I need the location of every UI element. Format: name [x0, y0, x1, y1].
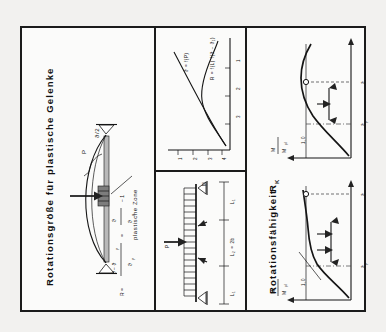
formula-equals: = — [119, 234, 125, 237]
y-tick-3: 3 — [208, 157, 213, 160]
panel-middle-top: ϑ = f(P) R = f(L) f(ϑ − ϑ₁) 1 2 3 1 2 3 … — [154, 28, 245, 170]
lower-tick-theta: ϑ — [361, 193, 366, 196]
load-label-p-middle: P — [165, 244, 170, 248]
lower-x-axis-arrow — [348, 180, 354, 187]
curve-label-theta: ϑ = f(P) — [184, 52, 189, 72]
dim-label-l1-top: L₁ — [230, 199, 235, 204]
lower-theta-y-sub: y — [364, 263, 368, 265]
left-column-title: Rotationsgröße für plastische Gelenke — [44, 67, 55, 286]
member-label-m: M — [202, 182, 207, 186]
lower-inset-beam — [317, 217, 339, 266]
y-tick-4: 4 — [222, 157, 227, 160]
x-tick-2: 2 — [236, 87, 241, 90]
dim-label-l1-bottom: L₁ — [230, 291, 235, 296]
formula-num1: ϑ − ϑ — [111, 263, 117, 274]
lower-theta-y-sym: ϑ — [361, 265, 366, 268]
upper-tick-theta-y: ϑy — [361, 121, 368, 126]
symbol-r-sub: K — [274, 178, 280, 184]
upper-curve-m-mpl — [301, 44, 349, 156]
x-tick-1: 1 — [236, 59, 241, 62]
load-label-p: P — [81, 149, 87, 154]
upper-x-axis-arrow — [348, 38, 354, 45]
upper-tick-10: 1,0 — [301, 136, 306, 144]
upper-tick-theta: ϑ — [361, 81, 366, 84]
upper-axis-den-sub: pl — [284, 142, 288, 145]
chart-right-upper — [281, 38, 361, 164]
upper-axis-den: M — [281, 149, 287, 153]
upper-y-axis-label: M M pl — [267, 118, 287, 154]
rotation-label-theta-half: ϑ/2 — [94, 128, 100, 138]
rotation-formula: R = ϑ − ϑ y ϑ y = ϑ ϑ y − 1 — [92, 178, 152, 298]
panel-right: Rotationsfähigkeit RK — [245, 28, 364, 314]
upper-theta-y-sub: y — [364, 121, 368, 123]
figure-sheet: Rotationsgröße für plastische Gelenke — [20, 26, 366, 312]
symbol-r: R — [267, 184, 278, 192]
formula-num1-sub: y — [115, 248, 119, 250]
lower-tick-10: 1,0 — [301, 278, 306, 286]
formula-lhs: R = — [119, 288, 125, 296]
formula-num2: ϑ — [111, 219, 117, 222]
lower-marker — [303, 191, 308, 196]
dim-label-l2: L₂ = 2b — [230, 237, 235, 256]
upper-inset-beam — [317, 83, 337, 124]
lower-curve-m-mpl — [303, 190, 349, 298]
lower-tick-theta-y: ϑy — [361, 263, 368, 268]
upper-y-axis-arrow — [287, 155, 294, 161]
panel-left: Rotationsgröße für plastische Gelenke — [22, 28, 154, 314]
x-tick-3: 3 — [236, 115, 241, 118]
lower-y-axis-arrow — [287, 297, 294, 303]
upper-marker — [303, 79, 308, 84]
formula-den2: ϑ — [127, 220, 133, 223]
lower-y-axis-label: M M pl — [267, 260, 287, 296]
panel-middle-bottom: P M L₁ L₂ = 2b L₁ — [154, 172, 245, 314]
y-tick-2: 2 — [193, 157, 198, 160]
curve-label-r: R = f(L) f(ϑ − ϑ₁) — [210, 37, 215, 80]
lower-axis-num: M — [270, 290, 276, 294]
right-column-symbol: RK — [267, 178, 280, 192]
upper-theta-y-sym: ϑ — [361, 123, 366, 126]
lower-axis-den: M — [281, 291, 287, 295]
upper-axis-num: M — [270, 148, 276, 152]
lower-axis-den-sub: pl — [284, 284, 288, 287]
formula-minus-one: − 1 — [119, 195, 125, 202]
series-theta-of-p — [174, 52, 226, 146]
formula-den2-sub: y — [131, 214, 135, 216]
chart-middle-top — [160, 34, 242, 164]
y-tick-1: 1 — [178, 157, 183, 160]
chart-right-lower — [281, 180, 361, 306]
formula-den1: ϑ — [127, 263, 133, 266]
formula-den1-sub: y — [131, 258, 135, 260]
